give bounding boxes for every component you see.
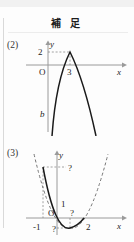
figure-3-parabola-curve — [43, 167, 84, 228]
figure-2-graph: 2 O 3 y x b — [0, 36, 134, 136]
figure-3-x-axis-label: x — [116, 221, 121, 231]
figure-3-x-tick-right-label: 2 — [86, 222, 91, 232]
figure-3-x-tick-left-label: -1 — [33, 222, 41, 232]
figure-3-unknown-label-bottom: ? — [52, 224, 56, 234]
figure-3-y-tick-label: 1 — [61, 199, 66, 209]
figure-2-x-axis-arrow-icon — [122, 62, 127, 67]
figure-2-y-axis-label: y — [49, 39, 54, 49]
figure-2-intercept-label: b — [40, 109, 45, 119]
figure-3-unknown-label-top: ? — [68, 163, 72, 173]
figure-2-x-tick-label: 3 — [67, 67, 72, 77]
title-divider — [8, 32, 128, 33]
page-top-band — [0, 0, 134, 7]
figure-3-origin-label: O — [48, 208, 55, 218]
figure-3-graph: y x ? 1 O ? -1 ? 2 — [0, 140, 134, 240]
page-title: 補 足 — [0, 15, 134, 30]
figure-2-x-axis-label: x — [116, 67, 121, 77]
figure-2-origin-label: O — [39, 67, 46, 77]
figure-2-y-tick-label: 2 — [38, 47, 43, 57]
page-canvas: 補 足 (2) 2 O 3 y x b (3) — [0, 0, 134, 242]
figure-3: (3) y x ? 1 O ? -1 ? — [0, 140, 134, 240]
figure-2: (2) 2 O 3 y x b — [0, 36, 134, 136]
figure-3-y-axis-label: y — [58, 150, 63, 160]
figure-3-x-axis-arrow-icon — [122, 215, 127, 220]
figure-3-unknown-label-mid: ? — [70, 208, 74, 218]
